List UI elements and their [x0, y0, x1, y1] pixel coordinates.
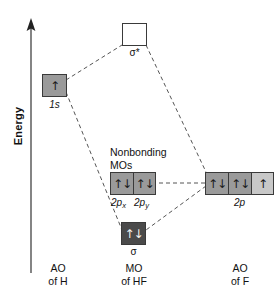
orbital-label-sigma: σ	[121, 246, 146, 257]
orbital-box-sigma-star	[122, 23, 147, 46]
orbital-box-f-2p-3: ↑	[251, 172, 274, 195]
orbital-box-2px: ↑↓	[110, 172, 133, 195]
orbital-box-h-1s: ↑	[42, 74, 67, 97]
orbital-label-2py-main: 2p	[134, 197, 145, 208]
orbital-spins-f-2p-2: ↑↓	[231, 178, 249, 190]
orbital-spins-2py: ↑↓	[135, 178, 153, 190]
energy-axis-label: Energy	[12, 91, 24, 161]
orbital-spins-f-2p-3: ↑	[258, 178, 267, 190]
energy-axis	[24, 18, 38, 273]
orbital-label-2py: 2py	[134, 197, 149, 210]
mo-energy-diagram: Energy σ* ↑ 1s Nonbonding MOs ↑↓ ↑↓ 2px …	[0, 0, 277, 291]
orbital-spins-h-1s: ↑	[50, 80, 59, 92]
orbital-label-f-2p: 2p	[205, 197, 274, 208]
orbital-box-f-2p-1: ↑↓	[205, 172, 228, 195]
caption-mo-of-hf: MO of HF	[106, 262, 162, 288]
orbital-label-2px: 2px	[111, 197, 126, 210]
orbital-box-f-2p-2: ↑↓	[228, 172, 251, 195]
orbital-box-sigma: ↑↓	[121, 222, 146, 245]
line-h1s-to-sigmastar	[66, 45, 122, 80]
orbital-spins-sigma: ↑↓	[124, 228, 142, 240]
orbital-label-sigma-star: σ*	[122, 47, 147, 58]
orbital-box-2py: ↑↓	[133, 172, 156, 195]
caption-ao-of-h: AO of H	[30, 262, 86, 288]
caption-ao-of-f: AO of F	[212, 262, 268, 288]
orbital-spins-2px: ↑↓	[113, 178, 131, 190]
orbital-spins-f-2p-1: ↑↓	[208, 178, 226, 190]
orbital-label-h-1s: 1s	[42, 99, 67, 110]
orbital-row-nonbonding: ↑↓ ↑↓	[110, 172, 156, 195]
orbital-label-2px-sub: x	[122, 201, 126, 210]
orbital-label-2px-main: 2p	[111, 197, 122, 208]
orbital-row-f-2p: ↑↓ ↑↓ ↑	[205, 172, 274, 195]
orbital-label-2py-sub: y	[145, 201, 149, 210]
nonbonding-mos-title: Nonbonding MOs	[110, 146, 167, 172]
